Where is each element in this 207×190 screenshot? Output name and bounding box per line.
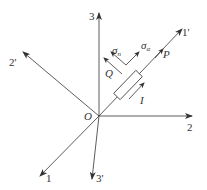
I-label: I	[139, 94, 145, 106]
sigma-alpha-subscript: α	[146, 45, 150, 53]
axis-1-line	[40, 116, 99, 176]
stress-axes-diagram: O 3 1' 2 2' 1 3' P Q I σn σα	[0, 0, 207, 190]
sigma-n-label: σn	[112, 44, 121, 58]
axis-3-label: 3	[89, 10, 95, 22]
P-arrow	[155, 49, 163, 58]
axis-2prime-label: 2'	[9, 56, 17, 68]
P-label: P	[162, 48, 170, 60]
origin-label: O	[84, 110, 92, 122]
axis-1-label: 1	[46, 172, 52, 184]
Q-label: Q	[105, 67, 113, 79]
stress-element	[114, 70, 143, 99]
axis-2prime-line	[23, 52, 99, 116]
sigma-n-subscript: n	[117, 50, 121, 58]
sigma-alpha-label: σα	[141, 39, 150, 53]
axis-1prime-label: 1'	[182, 26, 190, 38]
axis-2-label: 2	[187, 121, 193, 133]
axis-3prime-label: 3'	[96, 172, 104, 184]
axis-3prime-line	[92, 116, 99, 179]
sigma-alpha-arrow	[126, 52, 139, 65]
